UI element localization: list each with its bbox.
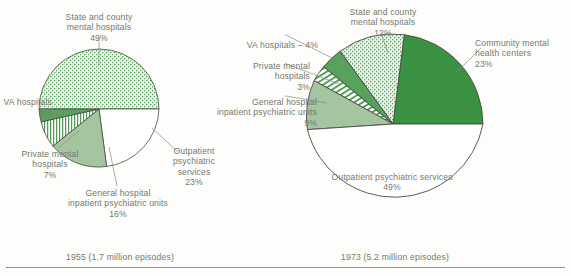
label-va-hospitals-1955: VA hospitals 5%	[0, 97, 52, 118]
leader-private	[58, 131, 79, 148]
label-general-hospital-1973: General hospital inpatient psychiatric u…	[180, 97, 317, 128]
bottom-rule	[6, 267, 565, 268]
label-private-mental-1955: Private mental hospitals 7%	[4, 149, 96, 180]
label-private-mental-1973: Private mental hospitals 3%	[215, 61, 310, 92]
leader-general	[109, 147, 117, 186]
label-outpatient-1973: Outpatient psychiatric services 49%	[317, 172, 467, 193]
label-general-hospital-1955: General hospital inpatient psychiatric u…	[46, 188, 190, 219]
label-state-county-1955: State and county mental hospitals 49%	[49, 12, 149, 43]
label-community-mental-1973: Community mental health centers 23%	[475, 38, 571, 69]
label-state-county-1973: State and county mental hospitals 12%	[331, 7, 435, 38]
figure-two-pie-charts: State and county mental hospitals 49% VA…	[0, 0, 571, 276]
pie-chart-1973: State and county mental hospitals 12% Co…	[285, 0, 571, 276]
caption-1955: 1955 (1.7 million episodes)	[40, 252, 200, 262]
label-va-hospitals-1973: VA hospitals – 4%	[215, 40, 318, 50]
caption-1973: 1973 (5.2 million episodes)	[315, 252, 475, 262]
label-outpatient-1955: Outpatient psychiatric services 23%	[161, 146, 227, 188]
